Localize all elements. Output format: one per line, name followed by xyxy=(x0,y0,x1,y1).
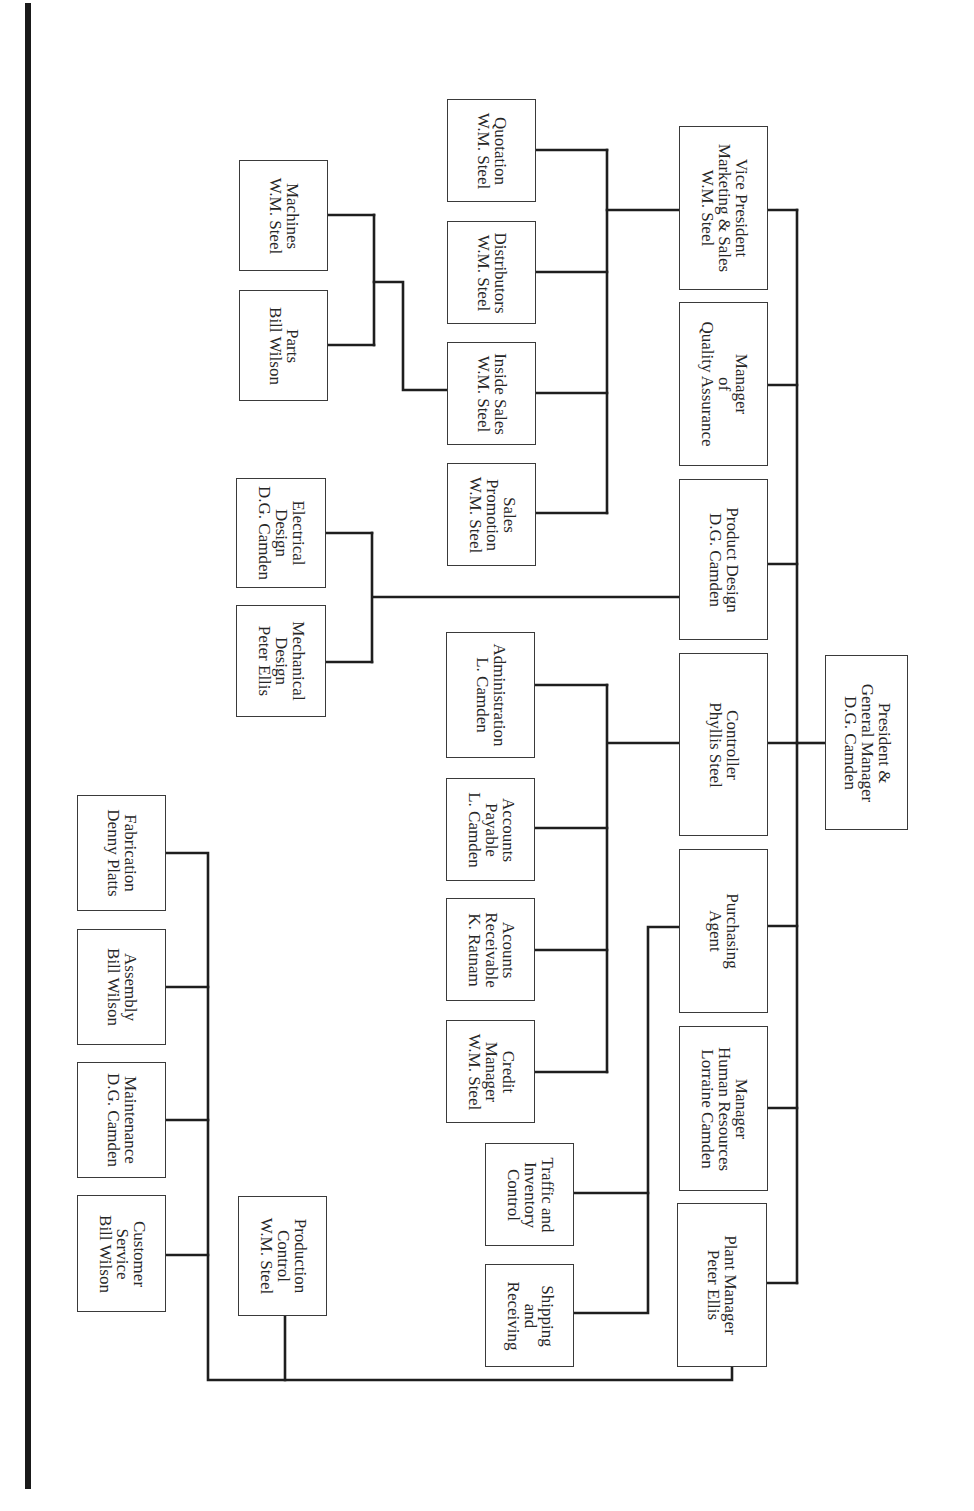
node-purchasing-agent: PurchasingAgent xyxy=(679,849,768,1013)
node-production-control: ProductionControlW.M. Steel xyxy=(238,1196,327,1316)
node-human-resources: ManagerHuman ResourcesLorraine Camden xyxy=(679,1026,768,1191)
node-accounts-receivable: AcountsReceivableK. Ratnam xyxy=(446,898,535,1001)
node-mechanical-design: MechanicalDesignPeter Ellis xyxy=(236,605,326,717)
node-quality-assurance: ManagerofQuality Assurance xyxy=(679,302,768,466)
node-administration: AdministrationL. Camden xyxy=(446,632,535,758)
node-accounts-payable: AccountsPayableL. Camden xyxy=(446,778,535,881)
node-product-design: Product DesignD.G. Camden xyxy=(679,479,768,640)
node-assembly: AssemblyBill Wilson xyxy=(77,929,166,1045)
org-chart: President &General ManagerD.G. Camden Vi… xyxy=(0,0,974,1511)
node-controller: ControllerPhyllis Steel xyxy=(679,653,768,836)
node-fabrication: FabricationDenny Platts xyxy=(77,795,166,911)
node-inside-sales: Inside SalesW.M. Steel xyxy=(447,342,536,445)
node-quotation: QuotationW.M. Steel xyxy=(447,99,536,202)
node-sales-promotion: SalesPromotionW.M. Steel xyxy=(447,463,536,566)
node-president: President &General ManagerD.G. Camden xyxy=(825,655,908,830)
node-distributors: DistributorsW.M. Steel xyxy=(447,221,536,324)
node-electrical-design: ElectricalDesignD.G. Camden xyxy=(236,478,326,588)
node-vp-marketing-sales: Vice PresidentMarketing & SalesW.M. Stee… xyxy=(679,126,768,290)
node-shipping-receiving: ShippingandReceiving xyxy=(485,1264,574,1367)
node-maintenance: MaintenanceD.G. Camden xyxy=(77,1062,166,1178)
node-customer-service: CustomerServiceBill Wilson xyxy=(77,1195,166,1312)
node-credit-manager: CreditManagerW.M. Steel xyxy=(446,1020,535,1123)
node-traffic-inventory-control: Traffic andInventoryControl xyxy=(485,1143,574,1246)
node-plant-manager: Plant ManagerPeter Ellis xyxy=(677,1203,767,1367)
node-parts: PartsBill Wilson xyxy=(239,290,328,401)
node-machines: MachinesW.M. Steel xyxy=(239,160,328,271)
